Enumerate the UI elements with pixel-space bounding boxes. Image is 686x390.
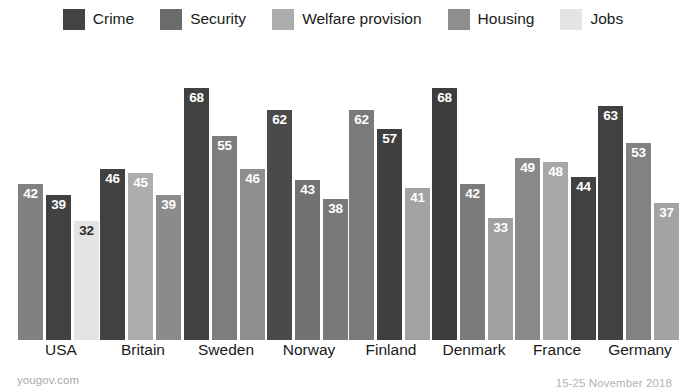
bar-value-label: 42 [18,187,43,202]
bar-group-bars: 635337 [598,40,679,340]
bar-norway-crime[interactable]: 62 [267,110,292,340]
bar-value-label: 39 [156,198,181,213]
bar-group-norway: 624338 [267,40,348,340]
legend-item-security[interactable]: Security [160,9,246,30]
bar-value-label: 62 [349,113,374,128]
bar-usa-jobs[interactable]: 32 [74,221,99,340]
bar-norway-housing[interactable]: 38 [323,199,348,340]
legend-label-security: Security [190,11,246,27]
category-axis: USABritainSwedenNorwayFinlandDenmarkFran… [0,341,686,365]
bar-value-label: 63 [598,109,623,124]
category-label-germany: Germany [580,341,686,360]
bar-group-france: 494844 [515,40,596,340]
bar-finland-welfare-provision[interactable]: 41 [405,188,430,340]
bar-value-label: 39 [46,198,71,213]
legend-label-jobs: Jobs [590,11,623,27]
bar-usa-crime[interactable]: 39 [46,195,71,340]
bar-france-security[interactable]: 49 [515,158,540,340]
legend-swatch-welfare [272,9,294,30]
bar-group-bars: 684233 [432,40,513,340]
legend-item-housing[interactable]: Housing [448,9,535,30]
bar-group-bars: 625741 [349,40,430,340]
bar-britain-welfare-provision[interactable]: 45 [128,173,153,340]
bar-sweden-security[interactable]: 55 [212,136,237,340]
bar-group-bars: 685546 [184,40,265,340]
legend-item-crime[interactable]: Crime [63,9,134,30]
bar-value-label: 46 [240,172,265,187]
bar-germany-crime[interactable]: 63 [598,106,623,340]
legend-swatch-crime [63,9,85,30]
legend-label-crime: Crime [93,11,134,27]
bar-value-label: 68 [184,91,209,106]
bar-france-welfare-provision[interactable]: 48 [543,162,568,340]
bar-group-bars: 494844 [515,40,596,340]
bar-value-label: 32 [74,224,99,239]
bar-value-label: 38 [323,202,348,217]
chart-plot-area: 4239324645396855466243386257416842334948… [0,40,686,340]
bar-sweden-housing[interactable]: 46 [240,169,265,340]
bar-group-britain: 464539 [100,40,181,340]
bar-value-label: 37 [654,206,679,221]
bar-value-label: 33 [488,221,513,236]
bar-finland-crime[interactable]: 57 [377,129,402,340]
legend-swatch-housing [448,9,470,30]
bar-group-denmark: 684233 [432,40,513,340]
bar-britain-housing[interactable]: 39 [156,195,181,340]
bar-value-label: 46 [100,172,125,187]
bar-value-label: 42 [460,187,485,202]
bar-group-germany: 635337 [598,40,679,340]
bar-value-label: 62 [267,113,292,128]
bar-group-usa: 423932 [18,40,99,340]
bar-value-label: 49 [515,161,540,176]
legend-swatch-security [160,9,182,30]
bar-group-bars: 624338 [267,40,348,340]
legend-item-welfare[interactable]: Welfare provision [272,9,421,30]
legend-label-welfare: Welfare provision [302,11,421,27]
bar-denmark-security[interactable]: 42 [460,184,485,340]
bar-sweden-crime[interactable]: 68 [184,88,209,340]
bar-group-finland: 625741 [349,40,430,340]
legend-item-jobs[interactable]: Jobs [560,9,623,30]
bar-value-label: 55 [212,139,237,154]
fieldwork-dates: 15-25 November 2018 [556,377,672,389]
bar-denmark-welfare-provision[interactable]: 33 [488,218,513,340]
bar-value-label: 44 [571,180,596,195]
chart-legend: CrimeSecurityWelfare provisionHousingJob… [0,4,686,34]
bar-denmark-crime[interactable]: 68 [432,88,457,340]
bar-usa-security[interactable]: 42 [18,184,43,340]
bar-value-label: 68 [432,91,457,106]
bar-value-label: 53 [626,146,651,161]
bar-value-label: 45 [128,176,153,191]
bar-france-crime[interactable]: 44 [571,177,596,340]
bar-value-label: 43 [295,183,320,198]
bar-britain-crime[interactable]: 46 [100,169,125,340]
legend-label-housing: Housing [478,11,535,27]
bar-value-label: 57 [377,132,402,147]
bar-group-sweden: 685546 [184,40,265,340]
bar-value-label: 41 [405,191,430,206]
bar-norway-security[interactable]: 43 [295,180,320,340]
source-attribution: yougov.com [17,374,79,386]
bar-group-bars: 423932 [18,40,99,340]
bar-group-bars: 464539 [100,40,181,340]
bar-finland-security[interactable]: 62 [349,110,374,340]
bar-germany-security[interactable]: 53 [626,143,651,340]
bar-germany-welfare-provision[interactable]: 37 [654,203,679,340]
legend-swatch-jobs [560,9,582,30]
bar-value-label: 48 [543,165,568,180]
